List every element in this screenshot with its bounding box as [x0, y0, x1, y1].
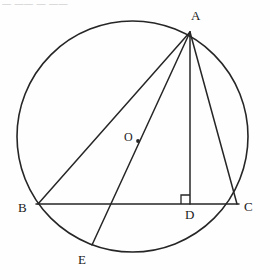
vertex-label-A: A	[191, 9, 200, 22]
segments-group	[36, 32, 239, 245]
diagram-canvas	[0, 0, 270, 280]
segment-AE	[92, 32, 190, 245]
segment-AB	[38, 32, 190, 204]
vertex-label-B: B	[18, 201, 27, 214]
vertex-label-C: C	[244, 200, 253, 213]
geometry-figure: — —— — —— A B C D E O	[0, 0, 270, 280]
vertex-label-D: D	[185, 208, 194, 221]
center-label-O: O	[124, 131, 133, 143]
segment-AC	[190, 32, 237, 204]
right-angle-marker-at-D	[181, 195, 190, 204]
vertex-label-E: E	[78, 253, 86, 266]
center-point-dot	[136, 139, 140, 143]
